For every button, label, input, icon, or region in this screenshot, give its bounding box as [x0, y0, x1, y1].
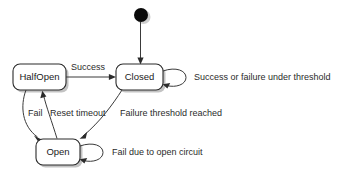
transition-open-to-halfopen[interactable]: Reset timeout [40, 91, 106, 139]
state-closed-label: Closed [125, 71, 155, 82]
transition-label-fail: Fail [28, 108, 43, 118]
state-diagram-svg: HalfOpen Closed Open Success Success or … [0, 0, 338, 175]
closed-to-open-arrowhead [80, 132, 88, 139]
transition-label-fail-due-to-open-circuit: Fail due to open circuit [112, 147, 203, 157]
transition-label-failure-threshold-reached: Failure threshold reached [120, 108, 222, 118]
transition-label-success-or-failure-under-threshold: Success or failure under threshold [194, 72, 331, 82]
state-closed-group[interactable]: Closed [116, 64, 166, 93]
transition-start-to-closed[interactable] [137, 22, 143, 65]
state-halfopen-group[interactable]: HalfOpen [13, 64, 69, 93]
halfopen-to-closed-arrowhead [109, 74, 116, 80]
transition-label-success: Success [71, 62, 106, 72]
state-open-group[interactable]: Open [36, 139, 83, 168]
transition-halfopen-to-closed[interactable]: Success [66, 62, 116, 80]
state-diagram-canvas: HalfOpen Closed Open Success Success or … [0, 0, 338, 175]
transition-label-reset-timeout: Reset timeout [50, 108, 106, 118]
state-open-label: Open [46, 146, 69, 157]
state-halfopen-label: HalfOpen [19, 71, 59, 82]
initial-state-node [134, 8, 148, 22]
transition-open-self-loop[interactable]: Fail due to open circuit [80, 144, 203, 164]
transition-closed-self-loop[interactable]: Success or failure under threshold [163, 69, 331, 89]
start-to-closed-arrowhead [137, 57, 143, 64]
transition-halfopen-to-open[interactable]: Fail [23, 90, 43, 141]
initial-pseudostate-group [134, 8, 151, 24]
